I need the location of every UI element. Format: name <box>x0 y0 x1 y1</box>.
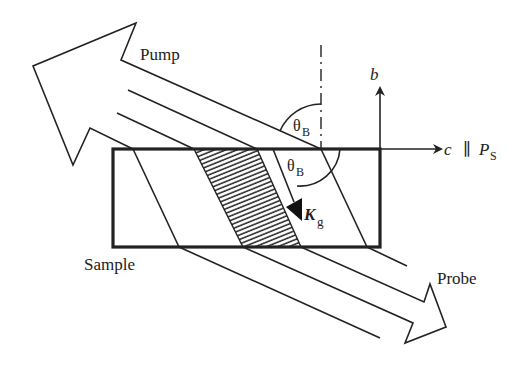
c-axis-label: c ∥ P S <box>444 140 497 163</box>
diagram-canvas: Pump Probe Sample b c ∥ P S θ B θ B K g <box>0 0 527 374</box>
theta-subscript: B <box>296 165 304 179</box>
theta-symbol: θ <box>287 157 295 174</box>
probe-beam-arrow <box>179 247 446 343</box>
probe-label: Probe <box>437 269 477 288</box>
b-axis-label: b <box>370 65 379 84</box>
theta-b-upper-label: θ B <box>293 117 310 139</box>
ps-subscript: S <box>490 149 497 163</box>
grating-hatch-region <box>194 149 301 247</box>
crystal-axes <box>380 88 441 149</box>
sample-label: Sample <box>84 255 135 274</box>
k-symbol: K <box>303 205 317 224</box>
theta-symbol: θ <box>293 117 301 134</box>
theta-b-lower-label: θ B <box>287 157 304 179</box>
k-subscript: g <box>317 214 324 229</box>
ps-label: P <box>478 140 489 159</box>
kg-label: K g <box>303 205 324 229</box>
pump-label: Pump <box>140 45 180 64</box>
c-label: c <box>444 140 452 159</box>
parallel-symbol: ∥ <box>463 140 471 159</box>
theta-subscript: B <box>302 125 310 139</box>
